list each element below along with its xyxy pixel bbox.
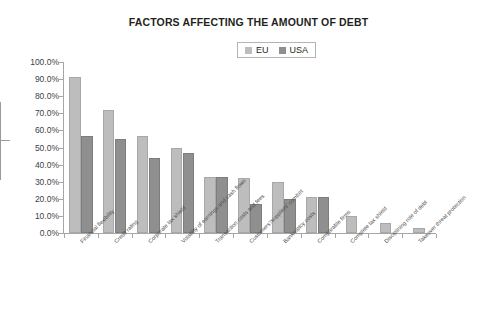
x-axis-category-label: Credit rating (113, 218, 139, 244)
x-axis-tick-mark (64, 234, 65, 238)
x-axis-tick-mark (267, 234, 268, 238)
chart-figure: FACTORS AFFECTING THE AMOUNT OF DEBT EU … (0, 0, 497, 325)
x-axis-tick-mark (132, 234, 133, 238)
x-axis-tick-mark (436, 234, 437, 238)
x-axis-category-label: Volatility of earnings and cash flows (180, 178, 247, 245)
x-axis-category-label: Financial flexibility (79, 208, 115, 244)
x-axis-tick-mark (301, 234, 302, 238)
x-axis-category-labels: Financial flexibilityCredit ratingCorpor… (0, 0, 497, 325)
x-axis-category-label: Bankruptcy costs (282, 210, 316, 244)
x-axis-tick-mark (98, 234, 99, 238)
x-axis-tick-mark (199, 234, 200, 238)
x-axis-tick-mark (335, 234, 336, 238)
x-axis-tick-mark (402, 234, 403, 238)
x-axis-tick-mark (368, 234, 369, 238)
x-axis-category-label: Comparable firms (316, 209, 351, 244)
x-axis-tick-mark (165, 234, 166, 238)
x-axis-category-label: Complete tax shield (349, 205, 388, 244)
x-axis-tick-mark (233, 234, 234, 238)
